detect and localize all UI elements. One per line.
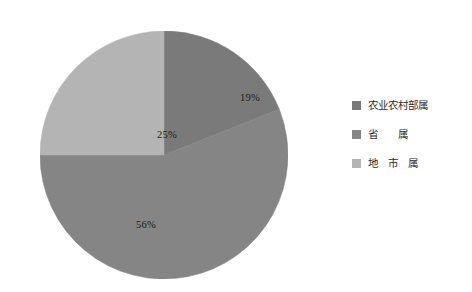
pie-slices-group bbox=[40, 31, 288, 279]
slice-data-label-1: 56% bbox=[136, 220, 156, 231]
legend-swatch-icon-2 bbox=[352, 159, 361, 168]
legend-item-2[interactable]: 地 市 属 bbox=[352, 156, 468, 170]
legend-item-0[interactable]: 农业农村部属 bbox=[352, 98, 468, 112]
chart-legend: 农业农村部属 省 属 地 市 属 bbox=[352, 98, 468, 170]
slice-data-label-0: 19% bbox=[240, 93, 260, 104]
legend-label-1: 省 属 bbox=[368, 129, 408, 140]
legend-swatch-icon-0 bbox=[352, 101, 361, 110]
pie-plot-area: 19% 56% 25% bbox=[40, 31, 288, 279]
pie-svg bbox=[40, 31, 288, 279]
pie-chart: 19% 56% 25% 农业农村部属 省 属 地 市 属 bbox=[0, 0, 472, 292]
legend-item-1[interactable]: 省 属 bbox=[352, 127, 468, 141]
legend-label-2: 地 市 属 bbox=[368, 158, 418, 169]
pie-slice[interactable] bbox=[40, 31, 164, 155]
legend-label-0: 农业农村部属 bbox=[368, 100, 428, 111]
legend-swatch-icon-1 bbox=[352, 130, 361, 139]
slice-data-label-2: 25% bbox=[157, 130, 177, 141]
